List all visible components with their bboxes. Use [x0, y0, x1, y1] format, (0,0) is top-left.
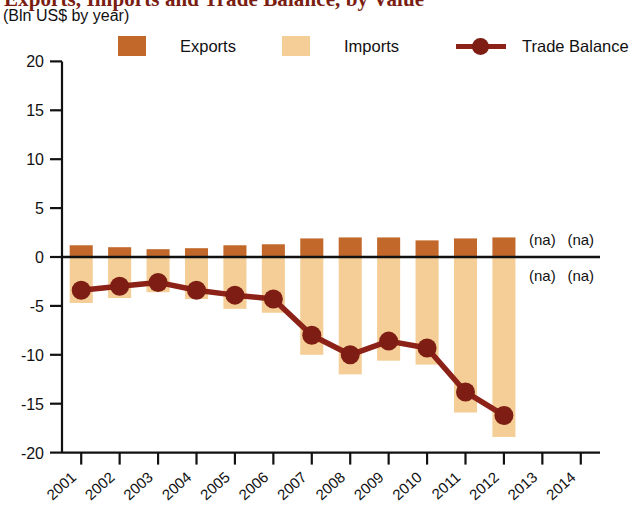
- na-label: (na): [529, 267, 556, 284]
- trade-balance-marker: [494, 406, 513, 425]
- trade-balance-marker: [341, 345, 360, 364]
- na-label: (na): [529, 231, 556, 248]
- bar-exports: [300, 238, 323, 257]
- bar-exports: [185, 248, 208, 257]
- trade-balance-marker: [418, 338, 437, 357]
- trade-balance-marker: [264, 290, 283, 309]
- x-tick-label: 2010: [389, 468, 425, 503]
- x-tick-label: 2008: [312, 468, 348, 503]
- y-tick-label: 0: [35, 249, 44, 266]
- x-tick-label: 2005: [197, 468, 233, 503]
- trade-balance-marker: [72, 281, 91, 300]
- x-tick-label: 2009: [350, 468, 386, 503]
- y-axis: 20151050-5-10-15-20: [21, 53, 62, 461]
- y-tick-label: -10: [21, 347, 44, 364]
- trade-balance-marker: [379, 332, 398, 351]
- x-tick-label: 2014: [543, 468, 579, 503]
- bar-exports: [416, 240, 439, 257]
- x-tick-label: 2012: [466, 468, 502, 503]
- bar-exports: [339, 237, 362, 257]
- bars-layer: [70, 237, 516, 437]
- trade-balance-marker: [187, 281, 206, 300]
- bar-exports: [454, 238, 477, 257]
- y-tick-label: 10: [26, 151, 44, 168]
- x-tick-label: 2013: [504, 468, 540, 503]
- x-tick-label: 2003: [120, 468, 156, 503]
- x-tick-label: 2011: [428, 468, 463, 502]
- x-tick-label: 2006: [235, 468, 271, 503]
- na-label: (na): [567, 231, 594, 248]
- trade-balance-marker: [149, 273, 168, 292]
- na-label: (na): [567, 267, 594, 284]
- x-tick-label: 2001: [43, 468, 79, 503]
- trade-balance-line-layer: [72, 273, 514, 425]
- y-tick-label: -15: [21, 396, 44, 413]
- y-tick-label: 20: [26, 53, 44, 70]
- bar-exports: [262, 244, 285, 257]
- x-axis: 2001200220032004200520062007200820092010…: [43, 453, 600, 504]
- trade-balance-marker: [110, 277, 129, 296]
- bar-exports: [70, 245, 93, 257]
- x-tick-label: 2007: [274, 468, 310, 503]
- trade-balance-marker: [456, 382, 475, 401]
- bar-exports: [377, 237, 400, 257]
- bar-exports: [492, 237, 515, 257]
- trade-balance-marker: [225, 286, 244, 305]
- trade-balance-line: [81, 282, 504, 415]
- x-tick-label: 2004: [158, 468, 194, 503]
- bar-exports: [108, 247, 131, 257]
- chart-container: Exports, Imports and Trade Balance, by V…: [0, 0, 642, 511]
- y-tick-label: -20: [21, 445, 44, 462]
- trade-balance-marker: [302, 326, 321, 345]
- x-tick-label: 2002: [81, 468, 117, 503]
- plot-area: 20151050-5-10-15-20 20012002200320042005…: [0, 0, 642, 511]
- y-tick-label: 5: [35, 200, 44, 217]
- y-tick-label: -5: [30, 298, 44, 315]
- bar-exports: [223, 245, 246, 257]
- y-tick-label: 15: [26, 102, 44, 119]
